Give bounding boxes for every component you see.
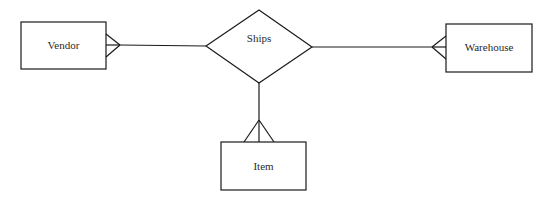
entity-item[interactable]: Item	[221, 142, 306, 190]
connector-vendor-ships	[120, 45, 206, 46]
entity-warehouse[interactable]: Warehouse	[446, 24, 532, 72]
crows-foot-vendor-icon	[106, 34, 120, 57]
crows-foot-item-icon	[244, 120, 274, 142]
entity-vendor-label: Vendor	[48, 39, 80, 51]
crows-foot-warehouse-icon	[432, 36, 446, 59]
entity-item-label: Item	[253, 160, 274, 172]
relationship-ships-diamond	[206, 10, 312, 83]
er-diagram-canvas: Vendor Ships Warehouse Item	[0, 0, 547, 201]
entity-vendor[interactable]: Vendor	[21, 22, 106, 69]
relationship-ships[interactable]: Ships	[206, 10, 312, 83]
entity-warehouse-label: Warehouse	[465, 41, 514, 53]
relationship-ships-label: Ships	[247, 32, 271, 44]
